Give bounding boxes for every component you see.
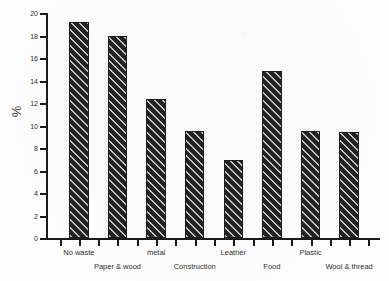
y-axis-tick <box>40 148 48 150</box>
x-axis-tick <box>156 240 158 246</box>
bar <box>146 99 165 238</box>
plot-area <box>48 14 380 238</box>
y-axis-tick-label: 0 <box>22 235 38 242</box>
y-axis-tick-label: 6 <box>22 168 38 175</box>
x-axis-tick <box>214 240 216 246</box>
y-axis-tick <box>40 193 48 195</box>
x-axis-tick <box>368 240 370 246</box>
y-axis-tick-label: 18 <box>22 33 38 40</box>
y-axis-tick-label: 20 <box>22 10 38 17</box>
y-axis-tick <box>40 238 48 240</box>
bar-chart: % 02468101214161820 No wastePaper & wood… <box>0 0 389 281</box>
x-axis-tick <box>272 240 274 246</box>
x-axis-tick <box>233 240 235 246</box>
x-axis-tick <box>137 240 139 246</box>
y-axis-tick <box>40 171 48 173</box>
y-axis-tick <box>40 13 48 15</box>
y-axis-tick <box>40 126 48 128</box>
y-axis-tick-label: 2 <box>22 213 38 220</box>
y-axis-tick-label: 12 <box>22 100 38 107</box>
y-axis-tick <box>40 58 48 60</box>
x-axis-tick <box>330 240 332 246</box>
x-axis-tick <box>311 240 313 246</box>
x-axis-label: Wool & thread <box>299 262 389 271</box>
y-axis-tick <box>40 216 48 218</box>
y-axis-tick <box>40 103 48 105</box>
x-axis-tick <box>195 240 197 246</box>
x-axis-tick <box>349 240 351 246</box>
y-axis-tick-label: 8 <box>22 145 38 152</box>
bar <box>224 160 243 238</box>
x-axis-tick <box>117 240 119 246</box>
bar <box>301 131 320 238</box>
x-axis-tick <box>79 240 81 246</box>
bar <box>339 132 358 238</box>
y-axis-tick-label: 16 <box>22 55 38 62</box>
x-axis-tick <box>98 240 100 246</box>
y-axis-tick <box>40 36 48 38</box>
y-axis-tick-label: 14 <box>22 78 38 85</box>
x-axis-tick <box>291 240 293 246</box>
bar <box>262 71 281 238</box>
y-axis-tick <box>40 81 48 83</box>
x-axis-tick <box>175 240 177 246</box>
x-axis-label: Plastic <box>261 248 361 257</box>
bar <box>185 131 204 238</box>
x-axis-tick <box>253 240 255 246</box>
bar <box>108 36 127 238</box>
y-axis-tick-label: 4 <box>22 190 38 197</box>
bar <box>69 22 88 238</box>
y-axis-tick-label: 10 <box>22 123 38 130</box>
x-axis-tick <box>60 240 62 246</box>
